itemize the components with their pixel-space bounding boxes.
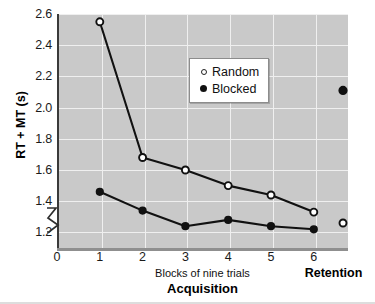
legend-label-blocked: Blocked bbox=[212, 82, 256, 96]
data-series-layer bbox=[0, 0, 375, 304]
legend-label-random: Random bbox=[212, 65, 259, 79]
data-point-blocked bbox=[311, 226, 318, 233]
chart-figure: 1.21.41.61.82.02.22.42.6 RT + MT (s) 012… bbox=[0, 0, 375, 304]
data-point-blocked bbox=[225, 217, 232, 224]
retention-point-blocked bbox=[339, 87, 347, 95]
data-point-random bbox=[139, 154, 146, 161]
data-point-random bbox=[310, 209, 317, 216]
data-point-random bbox=[182, 167, 189, 174]
legend-item-blocked: Blocked bbox=[197, 80, 259, 97]
data-point-blocked bbox=[182, 223, 189, 230]
legend-item-random: Random bbox=[197, 63, 259, 80]
data-point-random bbox=[96, 18, 103, 25]
x-axis-title: Acquisition bbox=[57, 281, 348, 296]
legend: Random Blocked bbox=[189, 58, 269, 103]
data-point-blocked bbox=[268, 223, 275, 230]
series-line-blocked bbox=[100, 192, 314, 230]
data-point-random bbox=[225, 182, 232, 189]
retention-axis-label: Retention bbox=[292, 266, 375, 280]
open-circle-icon bbox=[197, 69, 210, 75]
data-point-random bbox=[268, 192, 275, 199]
data-point-blocked bbox=[97, 189, 104, 196]
retention-point-random bbox=[340, 220, 347, 227]
filled-circle-icon bbox=[197, 85, 210, 92]
data-point-blocked bbox=[139, 207, 146, 214]
series-line-random bbox=[100, 22, 314, 212]
